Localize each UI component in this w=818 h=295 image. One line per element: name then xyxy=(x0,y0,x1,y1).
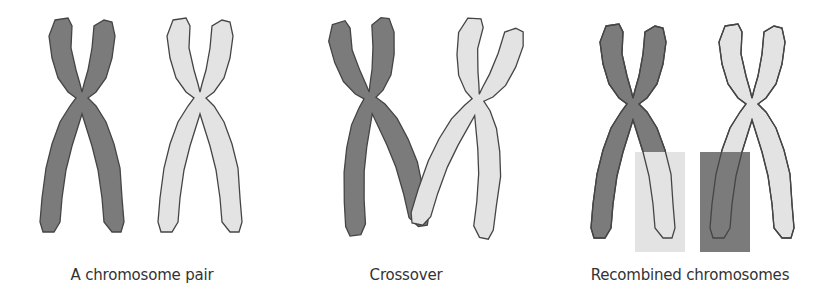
chromosome-light-crossing xyxy=(409,13,536,240)
chromosome-dark xyxy=(40,18,124,232)
caption-recombined: Recombined chromosomes xyxy=(591,266,790,284)
recombined-chromosome-2 xyxy=(700,24,794,252)
chromosome-diagram xyxy=(0,0,818,295)
chromosome-dark-crossing xyxy=(317,13,430,237)
recombined-chromosome-1 xyxy=(591,24,685,252)
caption-crossover: Crossover xyxy=(370,266,443,284)
caption-chromosome-pair: A chromosome pair xyxy=(71,266,214,284)
chromosome-light xyxy=(158,18,242,232)
